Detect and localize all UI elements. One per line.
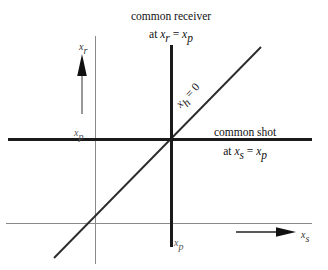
arrow-right-icon bbox=[236, 224, 298, 240]
arrow-up-icon bbox=[74, 52, 90, 114]
bottom-xp-tick-label: xp bbox=[174, 232, 183, 253]
shot-equals: = bbox=[244, 145, 256, 157]
common-shot-condition: at xs = xp bbox=[214, 141, 276, 162]
common-shot-label: common shot bbox=[214, 126, 276, 139]
horizontal-axis-sub: s bbox=[305, 233, 309, 244]
vertical-axis-sub: r bbox=[83, 45, 87, 56]
seismic-geometry-diagram: common receiver at xr = xp common shot a… bbox=[0, 0, 328, 270]
shot-sub-p: p bbox=[261, 149, 267, 161]
receiver-sub-p: p bbox=[187, 32, 193, 44]
horizontal-axis-label: xs bbox=[301, 224, 309, 245]
thin-vertical-reference-line bbox=[95, 36, 96, 264]
common-receiver-condition: at xr = xp bbox=[131, 24, 211, 45]
common-shot-annotation: common shot at xs = xp bbox=[214, 126, 276, 163]
left-xp-tick-label: xp bbox=[74, 122, 83, 143]
common-receiver-annotation: common receiver at xr = xp bbox=[131, 10, 211, 46]
common-receiver-gather-line bbox=[170, 45, 173, 247]
receiver-equals: = bbox=[170, 28, 182, 40]
at-prefix-shot: at bbox=[223, 145, 234, 157]
common-receiver-label: common receiver bbox=[131, 10, 211, 23]
bottom-tick-sub: p bbox=[178, 241, 183, 252]
zero-offset-label: xh = 0 bbox=[170, 78, 205, 114]
vertical-axis-label: xr bbox=[79, 36, 87, 57]
left-tick-sub: p bbox=[78, 131, 83, 142]
at-prefix-receiver: at bbox=[149, 28, 160, 40]
